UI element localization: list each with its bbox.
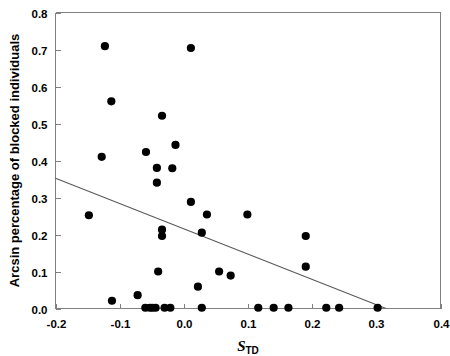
y-tick-label: 0.5 bbox=[32, 119, 49, 131]
y-tick-label: 0.4 bbox=[32, 156, 49, 168]
data-point bbox=[227, 271, 235, 279]
plot-canvas: 0.00.10.20.30.40.50.60.70.8-0.2-0.10.00.… bbox=[0, 0, 450, 356]
y-tick-label: 0.1 bbox=[32, 267, 49, 279]
data-point bbox=[158, 112, 166, 120]
data-point bbox=[101, 42, 109, 50]
y-tick-label: 0.3 bbox=[32, 193, 48, 205]
data-point bbox=[154, 267, 162, 275]
data-point bbox=[322, 304, 330, 312]
x-axis-title-main: S bbox=[237, 338, 245, 354]
y-tick-label: 0.6 bbox=[32, 82, 48, 94]
scatter-plot-figure: 0.00.10.20.30.40.50.60.70.8-0.2-0.10.00.… bbox=[0, 0, 450, 356]
regression-trendline bbox=[56, 178, 386, 308]
y-tick-label: 0.2 bbox=[32, 230, 48, 242]
data-point bbox=[215, 267, 223, 275]
data-point bbox=[187, 198, 195, 206]
data-point bbox=[142, 148, 150, 156]
data-point bbox=[153, 164, 161, 172]
data-point bbox=[187, 44, 195, 52]
data-point bbox=[158, 232, 166, 240]
data-point bbox=[198, 229, 206, 237]
data-point bbox=[152, 304, 160, 312]
data-point bbox=[98, 153, 106, 161]
data-point bbox=[302, 263, 310, 271]
data-point bbox=[270, 304, 278, 312]
data-point bbox=[107, 97, 115, 105]
data-point bbox=[203, 210, 211, 218]
x-tick-label: 0.2 bbox=[305, 318, 321, 330]
data-point bbox=[166, 304, 174, 312]
data-point bbox=[284, 304, 292, 312]
data-point bbox=[198, 304, 206, 312]
x-tick-label: 0.3 bbox=[369, 318, 385, 330]
x-tick-label: 0.4 bbox=[434, 318, 450, 330]
data-point bbox=[374, 304, 382, 312]
x-tick-label: -0.2 bbox=[47, 318, 67, 330]
x-tick-label: 0.1 bbox=[241, 318, 258, 330]
data-point bbox=[153, 179, 161, 187]
y-tick-label: 0.8 bbox=[32, 8, 49, 20]
data-point bbox=[168, 164, 176, 172]
y-tick-label: 0.7 bbox=[32, 45, 48, 57]
data-point bbox=[194, 283, 202, 291]
plot-content: 0.00.10.20.30.40.50.60.70.8-0.2-0.10.00.… bbox=[7, 8, 450, 356]
x-axis-title-subscript: TD bbox=[246, 345, 259, 356]
x-tick-label: 0.0 bbox=[177, 318, 193, 330]
data-point bbox=[302, 232, 310, 240]
y-tick-label: 0.0 bbox=[32, 304, 48, 316]
data-point bbox=[254, 304, 262, 312]
data-point bbox=[108, 297, 116, 305]
data-point bbox=[171, 141, 179, 149]
x-tick-label: -0.1 bbox=[111, 318, 131, 330]
x-axis-title: STD bbox=[237, 338, 259, 356]
data-point bbox=[85, 211, 93, 219]
data-point bbox=[243, 210, 251, 218]
data-point bbox=[134, 291, 142, 299]
data-point bbox=[335, 304, 343, 312]
y-axis-title: Arcsin percentage of blocked individuals bbox=[7, 34, 22, 288]
